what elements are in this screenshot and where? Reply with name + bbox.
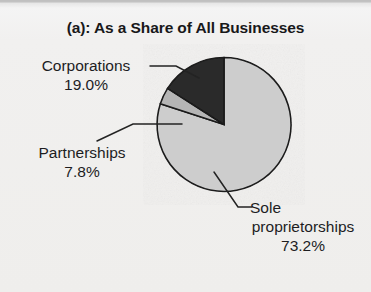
pie-label-partnerships-value: 7.8% <box>8 162 156 181</box>
chart-title: (a): As a Share of All Businesses <box>0 19 371 37</box>
pie-label-sole-value: 73.2% <box>237 236 369 255</box>
pie-label-corporations: Corporations 19.0% <box>22 56 150 94</box>
chart-figure: (a): As a Share of All Businesses Corpor… <box>0 0 371 292</box>
pie-label-corporations-name: Corporations <box>42 57 131 74</box>
pie-label-partnerships: Partnerships 7.8% <box>8 143 156 181</box>
pie-label-corporations-value: 19.0% <box>22 75 150 94</box>
pie-label-sole-name-line1: Sole <box>237 198 369 217</box>
pie-label-sole-name-line2: proprietorships <box>237 217 369 236</box>
pie-label-partnerships-name: Partnerships <box>38 144 125 161</box>
top-edge-rule <box>0 0 371 3</box>
pie-label-sole-proprietorships: Sole proprietorships 73.2% <box>237 198 369 255</box>
